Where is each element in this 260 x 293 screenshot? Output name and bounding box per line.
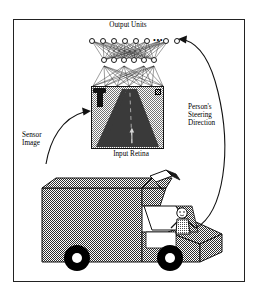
- input-retina-label: Input Retina: [94, 151, 168, 159]
- steering-direction-label: Person's Steering Direction: [188, 104, 240, 127]
- figure-canvas: ••• Output Units Input Retina Sensor Ima…: [0, 0, 260, 293]
- sensor-image-label: Sensor Image: [22, 132, 64, 148]
- steering-direction-arrow: [178, 36, 225, 229]
- output-units-label: Output Units: [88, 22, 168, 30]
